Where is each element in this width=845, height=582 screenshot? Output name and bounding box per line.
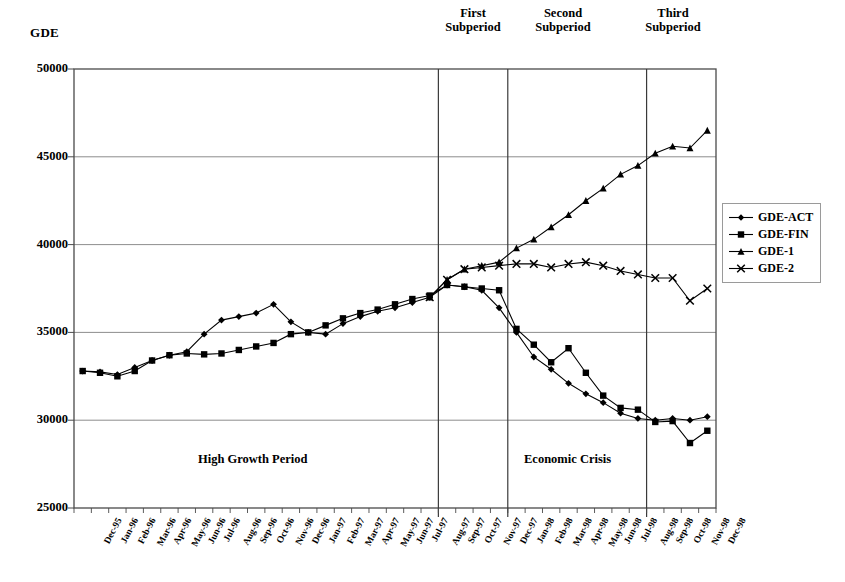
data-point-diamond (635, 415, 642, 422)
data-point-diamond (687, 417, 694, 424)
legend-label: GDE-1 (758, 244, 794, 259)
data-point-diamond (322, 331, 329, 338)
y-axis-tick-label: 25000 (10, 500, 68, 515)
data-point-square (479, 285, 485, 291)
data-point-cross (686, 297, 694, 305)
data-point-diamond (600, 399, 607, 406)
data-point-square (253, 343, 259, 349)
legend-item-gde-act: GDE-ACT (728, 209, 813, 226)
data-point-square (531, 341, 537, 347)
plot-area (0, 0, 845, 582)
plot-frame (74, 69, 716, 508)
data-point-diamond (235, 313, 242, 320)
data-point-square (270, 340, 276, 346)
data-point-square (687, 440, 693, 446)
legend-key-cross-icon (728, 263, 754, 274)
data-point-square (305, 329, 311, 335)
data-point-triangle (704, 127, 711, 134)
data-point-square (97, 370, 103, 376)
data-point-diamond (738, 214, 744, 220)
y-axis-tick-label: 50000 (10, 61, 68, 76)
data-point-square (218, 350, 224, 356)
data-point-square (236, 347, 242, 353)
y-axis-tick-label: 30000 (10, 412, 68, 427)
data-point-square (461, 284, 467, 290)
data-point-square (132, 368, 138, 374)
data-point-square (652, 419, 658, 425)
data-point-square (340, 315, 346, 321)
legend-item-gde-1: GDE-1 (728, 243, 813, 260)
data-point-triangle (530, 236, 537, 243)
data-point-square (565, 345, 571, 351)
data-point-square (496, 287, 502, 293)
legend-label: GDE-FIN (758, 227, 809, 242)
data-point-square (114, 373, 120, 379)
legend-item-gde-2: GDE-2 (728, 260, 813, 277)
series-line-gde-2 (430, 262, 708, 301)
y-axis-tick-label: 40000 (10, 237, 68, 252)
data-point-square (79, 368, 85, 374)
data-point-square (704, 428, 710, 434)
data-point-diamond (704, 413, 711, 420)
data-point-triangle (652, 150, 659, 157)
data-point-square (149, 357, 155, 363)
data-point-square (357, 310, 363, 316)
data-point-diamond (582, 390, 589, 397)
data-point-square (392, 301, 398, 307)
data-point-cross (704, 285, 712, 293)
data-point-square (513, 326, 519, 332)
data-point-square (617, 405, 623, 411)
chart-legend: GDE-ACTGDE-FINGDE-1GDE-2 (722, 203, 821, 283)
chart-container: GDE First Subperiod Second Subperiod Thi… (0, 0, 845, 582)
legend-key-square-icon (728, 229, 754, 240)
data-point-triangle (582, 197, 589, 204)
data-point-square (374, 306, 380, 312)
legend-item-gde-fin: GDE-FIN (728, 226, 813, 243)
data-point-triangle (513, 245, 520, 252)
data-point-square (738, 231, 744, 237)
data-point-square (322, 322, 328, 328)
data-point-square (166, 352, 172, 358)
data-point-square (635, 406, 641, 412)
data-point-triangle (634, 162, 641, 169)
y-axis-tick-label: 35000 (10, 324, 68, 339)
legend-key-triangle-icon (728, 246, 754, 257)
data-point-square (201, 351, 207, 357)
y-axis-tick-label: 45000 (10, 149, 68, 164)
data-point-square (548, 359, 554, 365)
data-point-triangle (617, 171, 624, 178)
data-point-square (669, 418, 675, 424)
data-point-square (600, 392, 606, 398)
data-point-triangle (548, 223, 555, 230)
data-point-square (288, 331, 294, 337)
legend-label: GDE-ACT (758, 210, 813, 225)
data-point-square (409, 296, 415, 302)
data-point-diamond (530, 354, 537, 361)
data-point-square (583, 370, 589, 376)
legend-label: GDE-2 (758, 261, 794, 276)
data-point-diamond (253, 310, 260, 317)
data-point-square (184, 350, 190, 356)
legend-key-diamond-icon (728, 212, 754, 223)
